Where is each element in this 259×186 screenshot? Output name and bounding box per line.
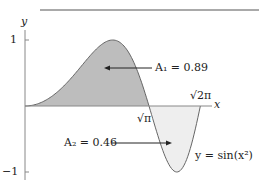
tick-label-pos1: 1 [10,34,17,45]
curve-label: y = sin(x²) [195,150,253,161]
a1-annotation: A₁ = 0.89 [155,62,208,73]
sqrt-pi-marker: √π [137,113,151,124]
sqrt-2pi-marker: √2π [190,90,211,101]
a2-annotation: A₂ = 0.46 [64,137,117,148]
region-a1 [25,40,149,106]
x-axis-label: x [214,99,220,110]
tick-label-neg1: −1 [2,166,18,177]
y-axis-label: y [21,16,27,27]
